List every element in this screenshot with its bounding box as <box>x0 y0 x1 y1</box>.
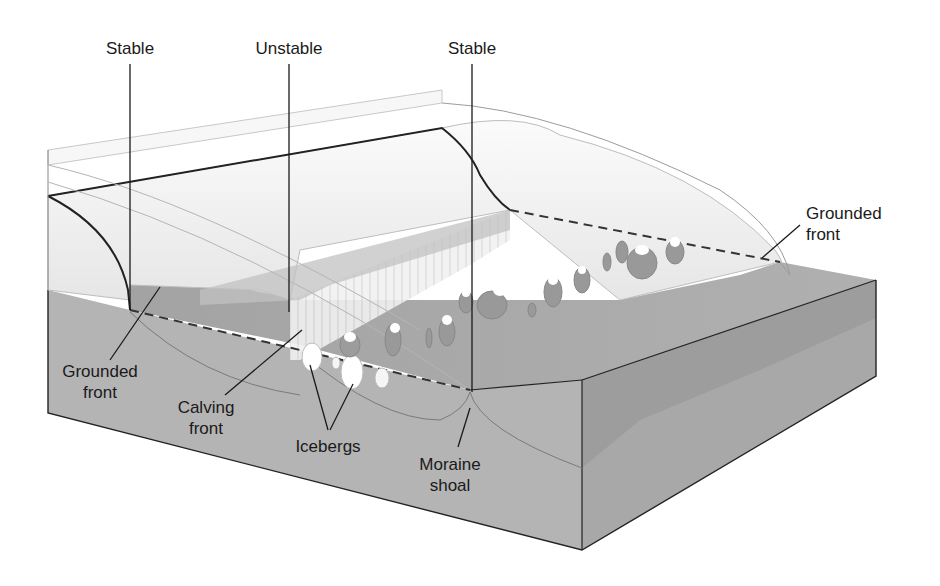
label-grounded-front-right-line1: Grounded <box>806 203 882 224</box>
glacier-block-diagram <box>0 0 940 586</box>
label-calving-front-line1: Calving <box>168 397 244 418</box>
label-grounded-front-left-line2: front <box>52 382 148 403</box>
label-unstable: Unstable <box>246 38 332 59</box>
label-moraine-shoal-line2: shoal <box>412 475 488 496</box>
label-grounded-front-left: Grounded front <box>52 361 148 403</box>
label-grounded-front-left-line1: Grounded <box>52 361 148 382</box>
label-icebergs: Icebergs <box>288 436 368 457</box>
label-grounded-front-right-line2: front <box>806 224 882 245</box>
label-grounded-front-right: Grounded front <box>806 203 882 245</box>
label-stable-left: Stable <box>98 38 162 59</box>
label-calving-front-line2: front <box>168 418 244 439</box>
label-stable-right: Stable <box>440 38 504 59</box>
label-moraine-shoal: Moraine shoal <box>412 454 488 496</box>
label-calving-front: Calving front <box>168 397 244 439</box>
label-moraine-shoal-line1: Moraine <box>412 454 488 475</box>
leader-grounded-front-right <box>762 225 800 258</box>
